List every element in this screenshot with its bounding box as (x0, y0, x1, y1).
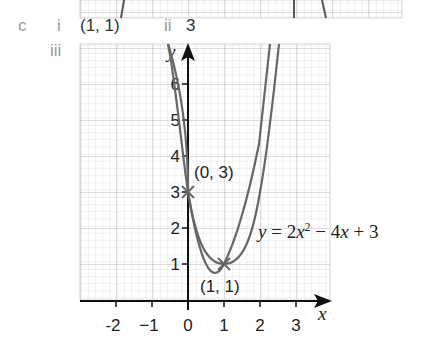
svg-text:3: 3 (291, 316, 300, 335)
svg-text:−1: −1 (139, 316, 158, 335)
svg-text:0: 0 (183, 316, 192, 335)
svg-text:4: 4 (171, 147, 180, 166)
x-axis-label: x (317, 303, 327, 324)
svg-text:2: 2 (171, 219, 180, 238)
svg-text:2: 2 (255, 316, 264, 335)
point-label-1-1: (1, 1) (200, 277, 240, 296)
parabola-chart: -2 −1 0 1 2 3 1 2 3 4 5 6 x y (0, 3) (1,… (0, 0, 433, 345)
svg-text:3: 3 (171, 183, 180, 202)
previous-grid-strip (80, 0, 402, 18)
equation-label: y = 2x2 − 4x + 3 (256, 220, 378, 242)
svg-text:1: 1 (219, 316, 228, 335)
point-label-0-3: (0, 3) (194, 163, 234, 182)
svg-text:1: 1 (171, 255, 180, 274)
svg-text:-2: -2 (105, 316, 120, 335)
